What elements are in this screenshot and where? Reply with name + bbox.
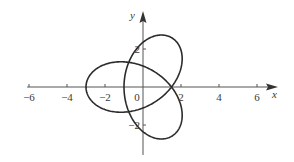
axes (27, 11, 278, 155)
origin-label: 0 (134, 91, 140, 103)
x-tick-label: 6 (254, 91, 260, 103)
x-tick-label: −2 (99, 91, 111, 103)
y-axis-label: y (129, 9, 135, 21)
x-axis-label: x (271, 88, 277, 100)
y-tick-label: −2 (128, 119, 140, 131)
x-tick-label: −4 (61, 91, 73, 103)
y-tick-label: 2 (135, 43, 141, 55)
x-tick-label: −6 (23, 91, 35, 103)
plot-area: −6−4−22460−22 x y (0, 0, 294, 162)
x-tick-label: 2 (178, 91, 184, 103)
x-tick-label: 4 (216, 91, 222, 103)
